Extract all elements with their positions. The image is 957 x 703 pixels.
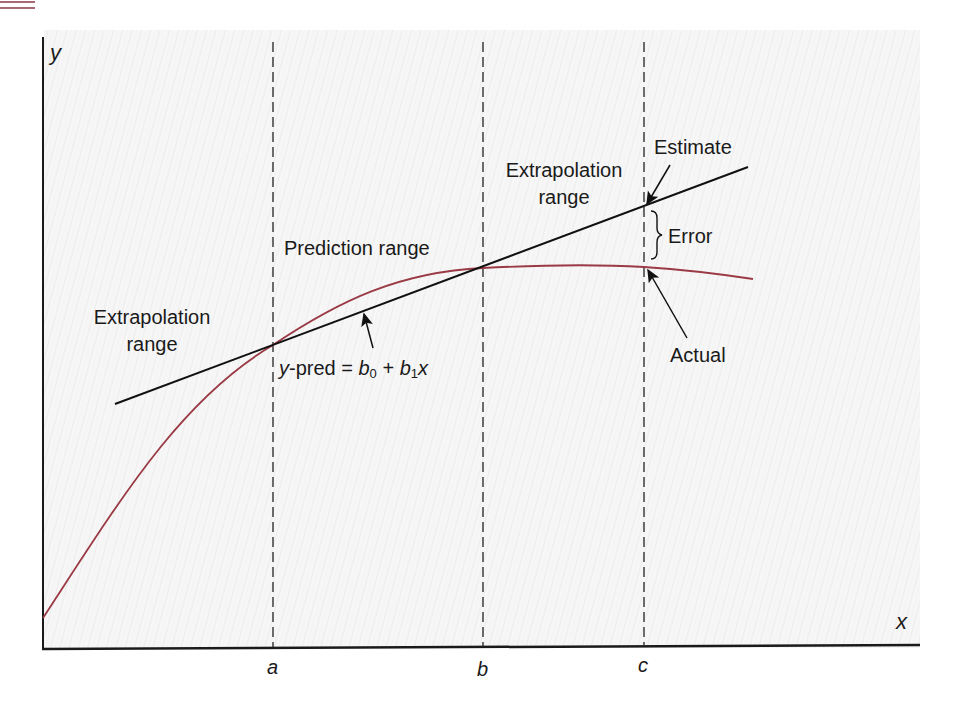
equation-b1: b	[400, 357, 411, 379]
equation-b0: b	[358, 357, 369, 379]
x-axis	[42, 645, 920, 649]
boundary-b-label: b	[477, 657, 488, 681]
prediction-range-label: Prediction range	[284, 236, 430, 260]
boundary-a-label: a	[267, 655, 278, 679]
equation-pred: -pred =	[289, 357, 358, 379]
left-extrapolation-line2: range	[72, 332, 232, 356]
right-extrapolation-label: Extrapolation range	[484, 158, 644, 209]
actual-label: Actual	[670, 343, 726, 367]
equation-plus: +	[377, 357, 400, 379]
equation-x: x	[418, 357, 428, 379]
regression-equation-label: y-pred = b0 + b1x	[279, 356, 428, 386]
equation-arrow	[364, 314, 373, 348]
equation-y: y	[279, 357, 289, 379]
equation-sub0: 0	[370, 366, 377, 381]
error-brace-icon	[651, 211, 662, 259]
regression-line	[115, 167, 748, 404]
error-label: Error	[668, 224, 712, 248]
left-extrapolation-label: Extrapolation range	[72, 305, 232, 356]
left-extrapolation-line1: Extrapolation	[72, 305, 232, 329]
right-extrapolation-line1: Extrapolation	[484, 158, 644, 182]
actual-arrow	[648, 270, 687, 338]
equation-sub1: 1	[411, 366, 418, 381]
right-extrapolation-line2: range	[484, 185, 644, 209]
x-axis-label: x	[896, 610, 907, 634]
y-axis-label: y	[50, 41, 61, 65]
estimate-label: Estimate	[654, 135, 732, 159]
boundary-c-label: c	[638, 653, 648, 677]
